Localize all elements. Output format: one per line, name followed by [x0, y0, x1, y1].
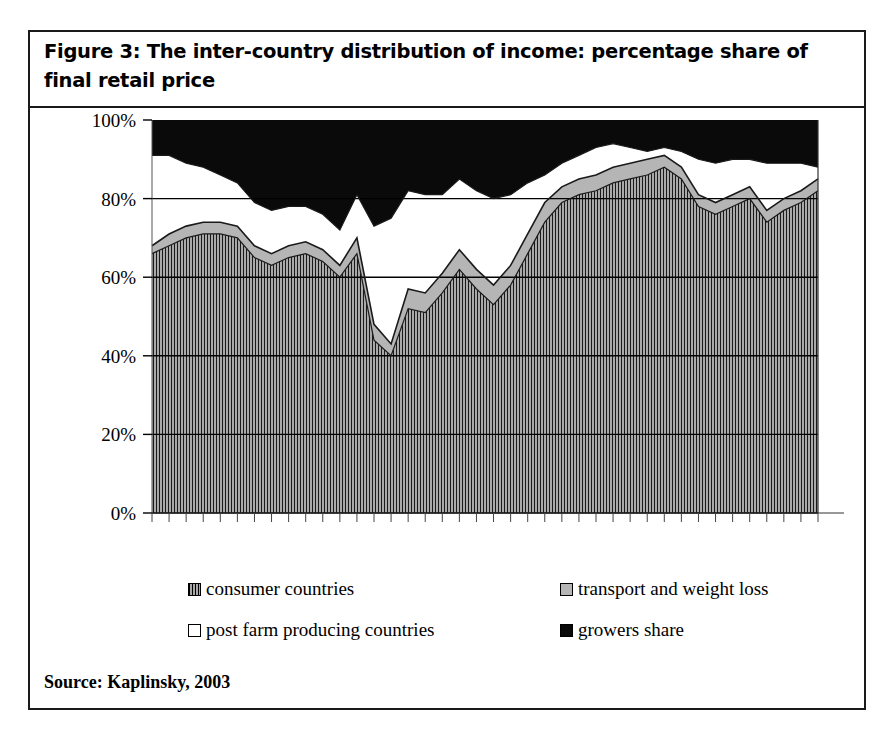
chart-legend: consumer countries transport and weight …: [30, 572, 864, 664]
legend-swatch-gray-icon: [560, 583, 573, 596]
legend-label: growers share: [578, 619, 684, 641]
y-tick-label: 100%: [92, 110, 137, 131]
figure-container: Figure 3: The inter-country distribution…: [28, 30, 866, 710]
y-tick-label: 40%: [101, 346, 136, 367]
figure-title-band: Figure 3: The inter-country distribution…: [30, 32, 864, 108]
legend-label: post farm producing countries: [206, 619, 434, 641]
chart-plot-region: 0%20%40%60%80%100%: [30, 108, 864, 600]
legend-label: consumer countries: [206, 578, 354, 600]
figure-title: Figure 3: The inter-country distribution…: [44, 37, 854, 95]
y-tick-label: 80%: [101, 189, 136, 210]
y-tick-label: 20%: [101, 424, 136, 445]
legend-item-post-farm-producing-countries[interactable]: post farm producing countries: [188, 619, 434, 641]
legend-label: transport and weight loss: [578, 578, 769, 600]
x-axis-ticks: [152, 513, 818, 522]
stacked-area-chart: 0%20%40%60%80%100%: [30, 108, 864, 600]
legend-swatch-black-icon: [560, 624, 573, 637]
legend-item-transport-and-weight-loss[interactable]: transport and weight loss: [560, 578, 769, 600]
legend-item-consumer-countries[interactable]: consumer countries: [188, 578, 354, 600]
area-series-group: [152, 120, 818, 513]
legend-swatch-hatch-icon: [188, 583, 201, 596]
y-tick-label: 60%: [101, 267, 136, 288]
y-axis-tick-labels: 0%20%40%60%80%100%: [92, 110, 152, 524]
legend-item-growers-share[interactable]: growers share: [560, 619, 684, 641]
y-tick-label: 0%: [111, 503, 137, 524]
source-citation: Source: Kaplinsky, 2003: [44, 672, 230, 693]
legend-swatch-white-icon: [188, 624, 201, 637]
